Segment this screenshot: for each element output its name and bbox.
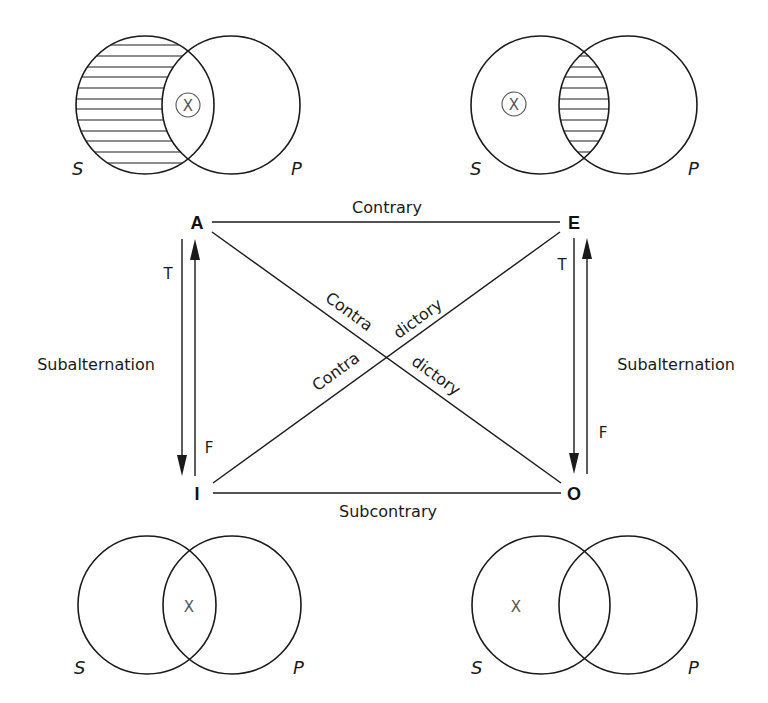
square-of-opposition-diagram: g p X S P	[0, 0, 768, 703]
subject-label: S	[470, 158, 481, 179]
corner-o: O	[567, 484, 581, 504]
subalternation-label-left: Subalternation	[37, 355, 155, 374]
corner-a: A	[191, 213, 204, 233]
left-subalternation: T F Subalternation	[37, 239, 213, 476]
venn-top-left-a: X S P	[70, 36, 302, 179]
contrary-label: Contrary	[352, 198, 422, 217]
truth-label-f: F	[205, 439, 214, 457]
truth-label-f: F	[599, 424, 608, 442]
arrow-up-icon	[582, 238, 592, 259]
subalternation-label-right: Subalternation	[617, 355, 735, 374]
venn-bottom-left-i: X S P	[74, 536, 304, 678]
arrow-down-icon	[569, 453, 579, 474]
x-mark: X	[511, 598, 521, 616]
subject-label: S	[72, 158, 83, 179]
subject-label: S	[74, 657, 85, 678]
predicate-label: P	[291, 158, 302, 179]
predicate-label: P	[688, 158, 699, 179]
x-mark: X	[184, 598, 194, 616]
corner-i: I	[194, 484, 199, 504]
subcontrary-label: Subcontrary	[339, 502, 437, 521]
x-mark: X	[509, 96, 519, 114]
venn-bottom-right-o: X S P	[471, 536, 699, 678]
arrow-up-icon	[190, 239, 200, 260]
subject-label: S	[471, 657, 482, 678]
arrow-down-icon	[177, 455, 187, 476]
predicate-circle	[559, 36, 697, 174]
subject-circle	[76, 36, 214, 174]
subject-circle	[78, 536, 216, 674]
contradictory-label-part1-upper: Contra	[322, 288, 377, 335]
hatching-intersection	[540, 45, 630, 163]
subject-circle	[471, 36, 609, 174]
right-subalternation: T F Subalternation	[556, 238, 734, 474]
predicate-circle	[559, 536, 697, 674]
square-of-opposition: A E I O Contrary Subcontrary Contra dict…	[37, 198, 735, 521]
x-mark: X	[183, 97, 193, 115]
corner-e: E	[568, 213, 580, 233]
subject-circle	[472, 536, 610, 674]
predicate-label: P	[293, 657, 304, 678]
truth-label-t: T	[162, 265, 173, 283]
truth-label-t: T	[556, 256, 567, 274]
contradictory-label-part2-lower: dictory	[408, 352, 464, 400]
predicate-label: P	[688, 657, 699, 678]
venn-top-right-e: X S P	[470, 36, 699, 179]
contradictory-label-part1-lower: Contra	[308, 348, 363, 395]
